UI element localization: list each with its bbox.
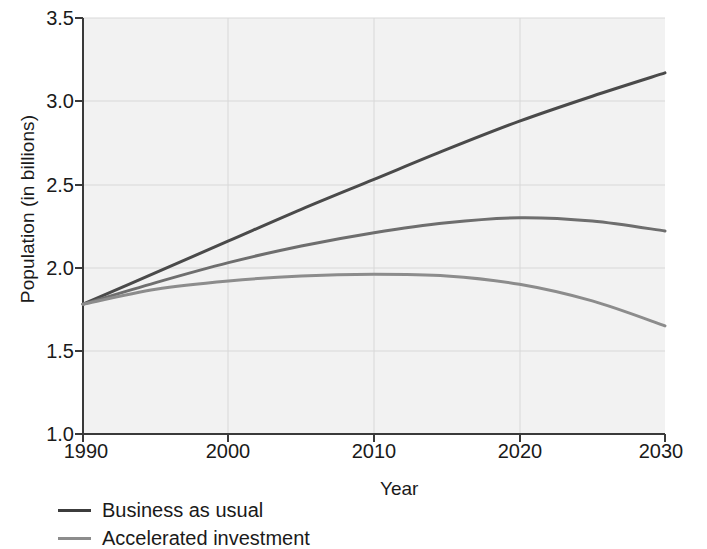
x-tick-label-2030: 2030: [639, 441, 684, 461]
y-tick-label-3-0: 3.0: [30, 91, 74, 111]
x-tick-label-2020: 2020: [498, 441, 543, 461]
x-tick-label-2010: 2010: [352, 441, 397, 461]
x-tick-label-2000: 2000: [206, 441, 251, 461]
x-tick-label-1990: 1990: [64, 441, 109, 461]
y-tick-label-2-0: 2.0: [30, 258, 74, 278]
legend-item-business-as-usual: Business as usual: [58, 496, 678, 524]
y-tick-label-1-5: 1.5: [30, 341, 74, 361]
x-axis-tick-labels: 1990 2000 2010 2020 2030: [0, 441, 707, 471]
y-tick-label-3-5: 3.5: [30, 8, 74, 28]
legend-label-accelerated-investment: Accelerated investment: [102, 528, 310, 548]
y-tick-label-2-5: 2.5: [30, 175, 74, 195]
chart-legend: Business as usual Accelerated investment: [58, 496, 678, 549]
y-axis-ticks: [75, 18, 83, 434]
legend-label-business-as-usual: Business as usual: [102, 500, 263, 520]
legend-line-swatch-icon: [58, 509, 91, 512]
legend-item-accelerated-investment: Accelerated investment: [58, 524, 678, 549]
legend-line-swatch-icon: [58, 537, 91, 540]
